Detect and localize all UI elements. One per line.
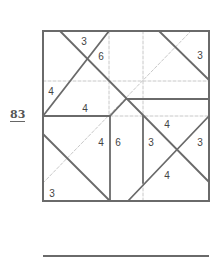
puzzle-diagram: 363444463343 bbox=[0, 0, 215, 257]
piece-label: 6 bbox=[115, 137, 121, 148]
cut-line bbox=[110, 99, 126, 116]
piece-label: 4 bbox=[48, 86, 54, 97]
piece-label: 6 bbox=[98, 51, 104, 62]
piece-label: 4 bbox=[82, 103, 88, 114]
guide-line bbox=[43, 31, 191, 183]
piece-label: 3 bbox=[197, 50, 203, 61]
piece-label: 4 bbox=[98, 137, 104, 148]
piece-label: 3 bbox=[197, 137, 203, 148]
piece-labels: 363444463343 bbox=[48, 36, 203, 199]
piece-label: 3 bbox=[148, 137, 154, 148]
piece-label: 4 bbox=[164, 170, 170, 181]
piece-label: 3 bbox=[81, 36, 87, 47]
cut-line bbox=[43, 31, 109, 116]
piece-label: 4 bbox=[164, 119, 170, 130]
piece-label: 3 bbox=[49, 188, 55, 199]
